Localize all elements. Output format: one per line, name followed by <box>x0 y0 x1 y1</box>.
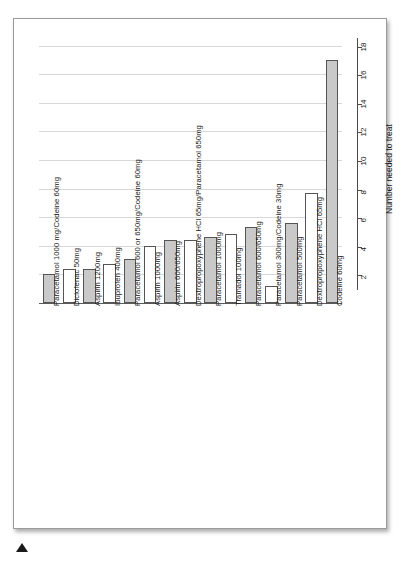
gridline-8 <box>39 189 342 190</box>
scanned-page-sheet: 24681012141618 Number needed to treat Pa… <box>13 18 387 529</box>
y-tick-label-6: 6 <box>359 218 368 222</box>
y-tick-label-4: 4 <box>359 247 368 251</box>
y-tick-label-16: 16 <box>359 71 368 80</box>
category-label-11: Paracetamol 300mg/Codeine 30mg <box>274 184 283 306</box>
y-tick-label-2: 2 <box>359 275 368 279</box>
y-tick-label-18: 18 <box>359 42 368 51</box>
y-tick-label-10: 10 <box>359 157 368 166</box>
category-label-6: Aspirin 600/650mg <box>173 241 182 306</box>
y-tick-label-12: 12 <box>359 128 368 137</box>
category-label-3: Ibuprofen 400mg <box>113 247 122 306</box>
category-label-12: Paracetamol 500mg <box>295 236 304 306</box>
category-label-5: Aspirin 1000mg <box>153 252 162 306</box>
gridline-14 <box>39 103 342 104</box>
category-label-0: Paracetamol 1000 mg/Codeine 60mg <box>52 177 61 306</box>
y-axis-title: Number needed to treat <box>384 124 394 214</box>
y-tick-label-14: 14 <box>359 99 368 108</box>
category-label-9: Tramadol 100mg <box>234 247 243 306</box>
category-label-13: Dextropropoxyphene HCl 65mg <box>315 197 324 306</box>
chart-y-axis: 24681012141618 Number needed to treat <box>357 38 401 304</box>
category-label-8: Paracetamol 1000mg <box>214 232 223 306</box>
triangle-marker-icon <box>16 543 28 552</box>
gridline-18 <box>39 46 342 47</box>
category-label-10: Paracetamol 600/650mg <box>254 221 263 306</box>
category-label-4: Paracetamol 600 or 650mg/Codeine 60mg <box>133 159 142 306</box>
category-label-14: Codeine 60mg <box>335 255 344 306</box>
category-label-7: Dextropropoxyphene HCl 65mg/Paracetamol … <box>194 125 203 306</box>
gridline-16 <box>39 74 342 75</box>
category-label-1: Diclofenac 50mg <box>72 248 81 306</box>
gridline-10 <box>39 160 342 161</box>
gridline-12 <box>39 131 342 132</box>
category-label-2: Aspirin 1200mg <box>93 252 102 306</box>
screenshot-page: 24681012141618 Number needed to treat Pa… <box>0 0 404 565</box>
chart-category-labels: Paracetamol 1000 mg/Codeine 60mgDiclofen… <box>39 306 357 516</box>
gridline-6 <box>39 217 342 218</box>
y-tick-label-8: 8 <box>359 190 368 194</box>
